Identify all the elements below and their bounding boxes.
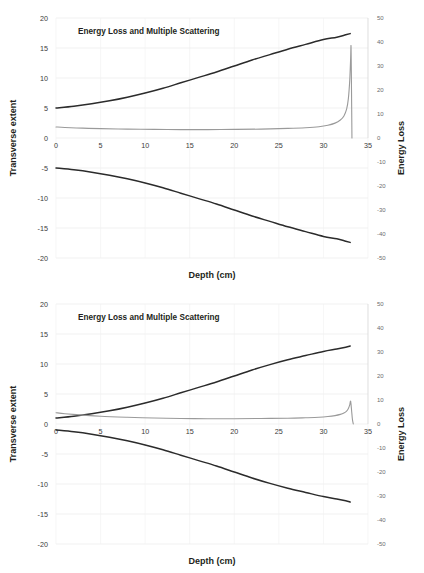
- right-axis-title: Energy Loss: [396, 121, 406, 175]
- right-axis-tick-label: -40: [377, 517, 386, 523]
- chart-title: Energy Loss and Multiple Scattering: [78, 27, 220, 36]
- left-axis-tick-label: -10: [38, 480, 48, 489]
- left-axis-tick-label: -20: [38, 540, 48, 549]
- right-axis-tick-label: 20: [377, 373, 384, 379]
- left-axis-ticks: 20151050-5-10-15-20: [38, 14, 48, 263]
- left-axis-tick-label: 0: [44, 134, 48, 143]
- left-axis-tick-label: 20: [40, 14, 48, 23]
- right-axis-title: Energy Loss: [396, 407, 406, 461]
- x-axis-tick-label: 30: [319, 427, 327, 436]
- x-axis-tick-label: 20: [230, 427, 238, 436]
- chart-svg-top: 20151050-5-10-15-2050403020100-10-20-30-…: [0, 0, 424, 286]
- x-axis-ticks: 05101520253035: [54, 427, 372, 436]
- right-axis-tick-label: 30: [377, 63, 384, 69]
- x-axis-tick-label: 10: [141, 427, 149, 436]
- right-axis-ticks: 50403020100-10-20-30-40-50: [377, 15, 386, 261]
- gridlines: [56, 18, 368, 258]
- right-axis-tick-label: -20: [377, 469, 386, 475]
- gridlines: [56, 304, 368, 544]
- x-axis-tick-label: 35: [364, 427, 372, 436]
- left-axis-tick-label: -5: [42, 450, 48, 459]
- x-axis-title: Depth (cm): [189, 270, 236, 280]
- right-axis-tick-label: 0: [377, 421, 381, 427]
- right-axis-tick-label: 20: [377, 87, 384, 93]
- left-axis-tick-label: -15: [38, 510, 48, 519]
- right-axis-tick-label: -10: [377, 445, 386, 451]
- series-beam-envelope-lower: [56, 168, 350, 242]
- x-axis-tick-label: 25: [275, 427, 283, 436]
- right-axis-tick-label: -10: [377, 159, 386, 165]
- right-axis-tick-label: 10: [377, 111, 384, 117]
- series-beam-envelope-lower: [56, 430, 350, 502]
- x-axis-tick-label: 5: [99, 141, 103, 150]
- left-axis-title: Transverse extent: [8, 100, 18, 177]
- chart-svg-bottom: 20151050-5-10-15-2050403020100-10-20-30-…: [0, 286, 424, 572]
- right-axis-tick-label: 50: [377, 15, 384, 21]
- right-axis-ticks: 50403020100-10-20-30-40-50: [377, 301, 386, 547]
- chart-panel-top: 20151050-5-10-15-2050403020100-10-20-30-…: [0, 0, 424, 286]
- right-axis-tick-label: -20: [377, 183, 386, 189]
- series-beam-envelope-upper: [56, 346, 350, 418]
- left-axis-tick-label: 15: [40, 44, 48, 53]
- series-beam-envelope-upper: [56, 34, 350, 108]
- left-axis-tick-label: -20: [38, 254, 48, 263]
- right-axis-tick-label: 10: [377, 397, 384, 403]
- left-axis-tick-label: 20: [40, 300, 48, 309]
- left-axis-tick-label: 0: [44, 420, 48, 429]
- left-axis-tick-label: 10: [40, 360, 48, 369]
- right-axis-tick-label: -30: [377, 493, 386, 499]
- figure-page: 20151050-5-10-15-2050403020100-10-20-30-…: [0, 0, 424, 573]
- x-axis-tick-label: 35: [364, 141, 372, 150]
- right-axis-tick-label: -30: [377, 207, 386, 213]
- x-axis-tick-label: 0: [54, 141, 58, 150]
- left-axis-tick-label: 5: [44, 104, 48, 113]
- chart-panel-bottom: 20151050-5-10-15-2050403020100-10-20-30-…: [0, 286, 424, 573]
- x-axis-tick-label: 10: [141, 141, 149, 150]
- right-axis-tick-label: 50: [377, 301, 384, 307]
- right-axis-tick-label: 40: [377, 39, 384, 45]
- left-axis-tick-label: -5: [42, 164, 48, 173]
- chart-title: Energy Loss and Multiple Scattering: [78, 313, 220, 322]
- x-axis-tick-label: 30: [319, 141, 327, 150]
- left-axis-tick-label: -10: [38, 194, 48, 203]
- x-axis-tick-label: 25: [275, 141, 283, 150]
- x-axis-ticks: 05101520253035: [54, 141, 372, 150]
- left-axis-tick-label: -15: [38, 224, 48, 233]
- left-axis-tick-label: 5: [44, 390, 48, 399]
- right-axis-tick-label: 40: [377, 325, 384, 331]
- left-axis-title: Transverse extent: [8, 386, 18, 463]
- right-axis-tick-label: 30: [377, 349, 384, 355]
- x-axis-tick-label: 15: [186, 141, 194, 150]
- x-axis-title: Depth (cm): [189, 556, 236, 566]
- right-axis-tick-label: 0: [377, 135, 381, 141]
- x-axis-tick-label: 15: [186, 427, 194, 436]
- right-axis-tick-label: -50: [377, 255, 386, 261]
- right-axis-tick-label: -50: [377, 541, 386, 547]
- left-axis-tick-label: 10: [40, 74, 48, 83]
- left-axis-tick-label: 15: [40, 330, 48, 339]
- x-axis-tick-label: 0: [54, 427, 58, 436]
- x-axis-tick-label: 20: [230, 141, 238, 150]
- left-axis-ticks: 20151050-5-10-15-20: [38, 300, 48, 549]
- right-axis-tick-label: -40: [377, 231, 386, 237]
